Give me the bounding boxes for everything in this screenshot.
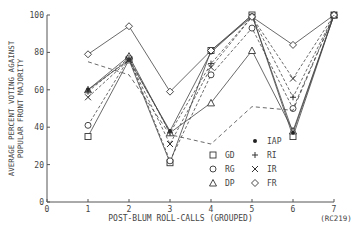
circle-marker [167,158,173,164]
y-axis-label: AVERAGE PERCENT VOTING AGAINST [7,40,16,176]
legend-label-gd: GD [225,151,235,160]
diamond-marker [85,51,92,58]
x-tick-label: 4 [209,205,214,214]
diamond-marker [252,180,259,187]
circle-marker [208,72,214,78]
y-tick-label: 40 [34,123,44,132]
diamond-marker [290,41,297,48]
x-axis-label: POST-BLUM ROLL-CALLS (GROUPED) [108,214,253,223]
legend-label-iap: IAP [267,137,282,146]
dot-marker [253,139,257,143]
legend-label-rg: RG [225,165,235,174]
x-tick-label: 6 [291,205,296,214]
x-tick-label: 1 [86,205,91,214]
y-tick-label: 60 [34,86,44,95]
legend-label-ri: RI [267,151,277,160]
x-tick-label: 0 [45,205,50,214]
y-axis-label: POPULAR FRONT MAJORITY [16,58,25,158]
diamond-marker [126,23,133,30]
x-tick-label: 2 [127,205,132,214]
y-tick-label: 0 [39,198,44,207]
circle-marker [249,25,255,31]
x-tick-label: 5 [250,205,255,214]
series-line-rg [88,15,334,161]
square-marker [210,152,216,158]
legend-label-ir: IR [267,165,277,174]
y-tick-label: 20 [34,161,44,170]
triangle-marker [249,47,256,54]
circle-marker [210,166,216,172]
legend-label-dp: DP [225,179,235,188]
y-tick-label: 100 [30,11,45,20]
line-chart: 01234567020406080100POST-BLUM ROLL-CALLS… [0,0,358,229]
square-marker [85,134,91,140]
chart-figure: 01234567020406080100POST-BLUM ROLL-CALLS… [0,0,358,229]
x-tick-label: 3 [168,205,173,214]
triangle-marker [210,180,217,187]
legend-label-fr: FR [267,179,277,188]
circle-marker [85,122,91,128]
x-tick-label: 7 [332,205,337,214]
annotation: (RC219) [320,214,352,223]
dot-marker [291,131,295,135]
y-tick-label: 80 [34,48,44,57]
